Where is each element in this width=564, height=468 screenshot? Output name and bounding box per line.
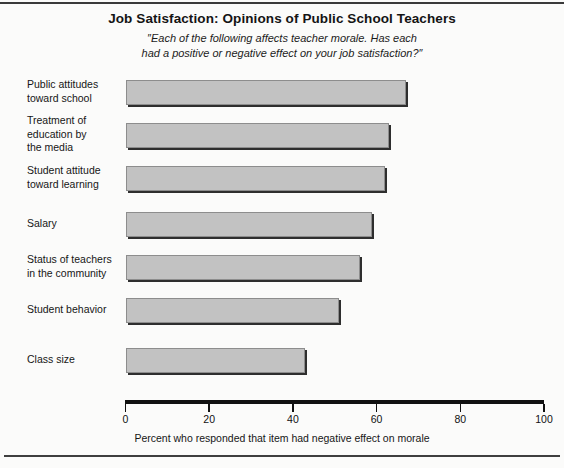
x-axis-tick	[543, 404, 545, 412]
bar	[126, 348, 306, 373]
category-label-line: in the community	[27, 267, 123, 281]
category-label: Public attitudestoward school	[27, 78, 123, 105]
x-axis-line	[125, 400, 544, 404]
x-axis-tick-label: 80	[454, 413, 466, 425]
x-axis-tick-label: 60	[371, 413, 383, 425]
x-axis-tick	[376, 404, 378, 412]
x-axis-title: Percent who responded that item had nega…	[0, 432, 564, 444]
bar	[126, 298, 339, 323]
category-label-line: Public attitudes	[27, 78, 123, 92]
bar	[126, 80, 406, 105]
x-axis-tick	[208, 404, 210, 412]
category-label: Treatment ofeducation bythe media	[27, 114, 123, 155]
x-axis-tick	[460, 404, 462, 412]
chart-figure: Job Satisfaction: Opinions of Public Sch…	[0, 0, 564, 468]
bar	[126, 212, 373, 237]
plot-area: Public attitudestoward schoolTreatment o…	[0, 0, 564, 468]
category-label: Status of teachersin the community	[27, 253, 123, 280]
category-label-line: toward school	[27, 92, 123, 106]
category-label: Class size	[27, 353, 123, 367]
bottom-rule	[4, 455, 560, 457]
category-label: Student attitudetoward learning	[27, 164, 123, 191]
x-axis-tick-label: 100	[535, 413, 553, 425]
bar	[126, 255, 360, 280]
category-label: Student behavior	[27, 303, 123, 317]
category-label-line: Student behavior	[27, 303, 123, 317]
category-label-line: Student attitude	[27, 164, 123, 178]
category-label-line: the media	[27, 141, 123, 155]
category-label-line: Salary	[27, 217, 123, 231]
category-label-line: education by	[27, 128, 123, 142]
x-axis-tick	[292, 404, 294, 412]
x-axis-tick-label: 20	[203, 413, 215, 425]
category-label-line: Class size	[27, 353, 123, 367]
category-label-line: Status of teachers	[27, 253, 123, 267]
bar	[126, 166, 385, 191]
bar	[126, 123, 390, 148]
x-axis-tick-label: 40	[287, 413, 299, 425]
category-label-line: Treatment of	[27, 114, 123, 128]
category-label-line: toward learning	[27, 178, 123, 192]
category-label: Salary	[27, 217, 123, 231]
x-axis-tick	[125, 404, 127, 412]
x-axis-tick-label: 0	[123, 413, 129, 425]
